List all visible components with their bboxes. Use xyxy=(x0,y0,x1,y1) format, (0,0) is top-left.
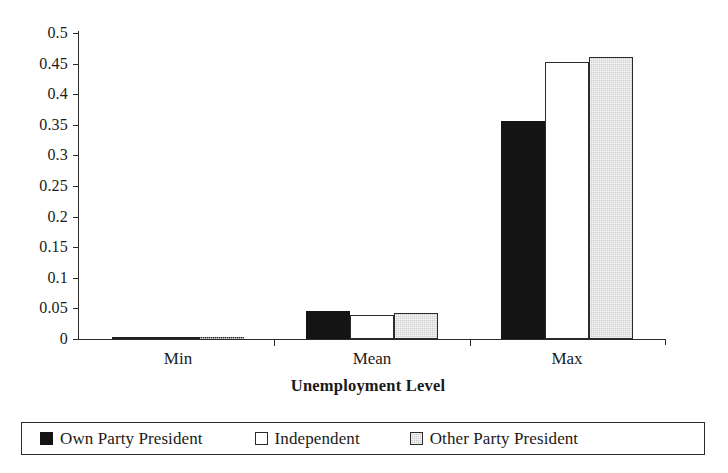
y-axis-tick-label: 0.45 xyxy=(39,56,68,72)
x-axis-category-label: Max xyxy=(507,349,627,369)
y-axis-tick-label: 0.3 xyxy=(47,147,68,163)
black-square-swatch-icon xyxy=(40,432,53,445)
y-axis-tick-label: 0.5 xyxy=(47,25,68,41)
y-axis-tick-label: 0.4 xyxy=(47,86,68,102)
bar xyxy=(501,121,545,339)
bar xyxy=(589,57,633,339)
y-axis-tick-label: 0.05 xyxy=(39,300,68,316)
legend-item-independent: Independent xyxy=(255,430,360,448)
bar xyxy=(112,337,156,339)
x-axis-title-text: Unemployment Level xyxy=(291,376,445,396)
y-axis-tick xyxy=(73,339,79,340)
x-axis-title: Unemployment Level xyxy=(0,376,728,396)
gray-square-swatch-icon xyxy=(410,432,423,445)
y-axis-tick-label: 0.35 xyxy=(39,117,68,133)
legend-item-own-party-president: Own Party President xyxy=(40,430,203,448)
bar xyxy=(350,315,394,339)
y-axis-tick-label: 0.2 xyxy=(47,209,68,225)
legend-item-other-party-president: Other Party President xyxy=(410,430,578,448)
y-axis-tick-label: 0.25 xyxy=(39,178,68,194)
bar-chart-figure: 0.50.450.40.350.30.250.20.150.10.050 Min… xyxy=(0,0,728,473)
white-square-swatch-icon xyxy=(255,432,268,445)
y-axis-tick-label: 0.15 xyxy=(39,239,68,255)
bar xyxy=(156,337,200,339)
y-axis-tick-label: 0 xyxy=(60,331,68,347)
legend-label: Independent xyxy=(275,430,360,448)
bar xyxy=(394,313,438,339)
x-axis-tick xyxy=(274,340,275,346)
legend-label: Other Party President xyxy=(430,430,578,448)
y-axis-tick-label: 0.1 xyxy=(47,270,68,286)
chart-legend: Own Party President Independent Other Pa… xyxy=(21,422,705,455)
x-axis-tick xyxy=(470,340,471,346)
bar xyxy=(306,311,350,339)
plot-area xyxy=(79,33,665,339)
bar xyxy=(545,62,589,339)
legend-label: Own Party President xyxy=(60,430,203,448)
x-axis-line xyxy=(79,339,666,340)
x-axis-category-label: Mean xyxy=(312,349,432,369)
bar xyxy=(200,337,244,339)
x-axis-end-tick xyxy=(665,339,666,345)
x-axis-category-label: Min xyxy=(118,349,238,369)
